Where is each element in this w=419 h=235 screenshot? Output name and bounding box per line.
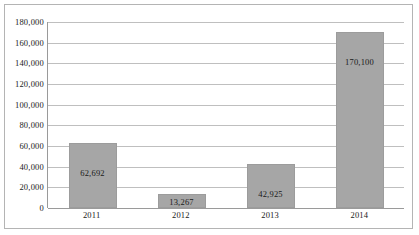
- xtick-label-2011: 2011: [47, 210, 136, 220]
- bar-slot-2012: 13,267: [137, 22, 226, 208]
- ytick-label-140000: 140,000: [15, 58, 44, 68]
- bar-2014[interactable]: 170,100: [336, 32, 384, 208]
- bar-2012[interactable]: 13,267: [158, 194, 206, 208]
- bar-slot-2013: 42,925: [226, 22, 315, 208]
- bar-value-2011: 62,692: [80, 168, 105, 178]
- xtick-label-2013: 2013: [226, 210, 315, 220]
- xtick-label-2012: 2012: [136, 210, 225, 220]
- bar-value-2013: 42,925: [258, 189, 283, 199]
- bar-value-2012: 13,267: [169, 197, 194, 207]
- chart-frame: 180,000 160,000 140,000 120,000 100,000 …: [4, 4, 413, 229]
- ytick-label-20000: 20,000: [19, 182, 44, 192]
- xaxis-labels: 2011 2012 2013 2014: [47, 210, 404, 220]
- ytick-label-120000: 120,000: [15, 79, 44, 89]
- bar-2013[interactable]: 42,925: [247, 164, 295, 208]
- bar-value-2014: 170,100: [345, 57, 374, 67]
- ytick-label-160000: 160,000: [15, 38, 44, 48]
- ytick-label-0: 0: [40, 203, 44, 213]
- bar-2011[interactable]: 62,692: [69, 143, 117, 208]
- plot-area: 180,000 160,000 140,000 120,000 100,000 …: [47, 22, 404, 208]
- bar-slot-2011: 62,692: [48, 22, 137, 208]
- ytick-label-180000: 180,000: [15, 17, 44, 27]
- ytick-label-100000: 100,000: [15, 100, 44, 110]
- gridline-baseline-0: 0: [48, 208, 404, 209]
- ytick-label-40000: 40,000: [19, 162, 44, 172]
- bar-slot-2014: 170,100: [315, 22, 404, 208]
- ytick-label-60000: 60,000: [19, 141, 44, 151]
- bar-series: 62,692 13,267 42,925 170,100: [48, 22, 404, 208]
- ytick-label-80000: 80,000: [19, 120, 44, 130]
- xtick-label-2014: 2014: [315, 210, 404, 220]
